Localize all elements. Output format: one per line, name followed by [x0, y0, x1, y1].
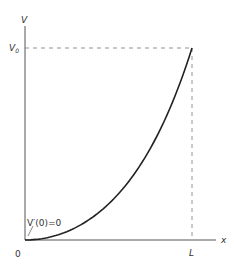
x-axis-label: x — [220, 235, 227, 245]
diagram: V V0 V′(0)=0 0 L x — [0, 0, 234, 268]
curve — [25, 48, 192, 240]
l-label: L — [189, 248, 194, 258]
v0-label: V0 — [9, 43, 19, 54]
origin-label: 0 — [15, 249, 21, 259]
annotation-label: V′(0)=0 — [27, 218, 61, 228]
v0-label-sub: 0 — [15, 47, 19, 54]
y-axis-label: V — [21, 15, 28, 25]
